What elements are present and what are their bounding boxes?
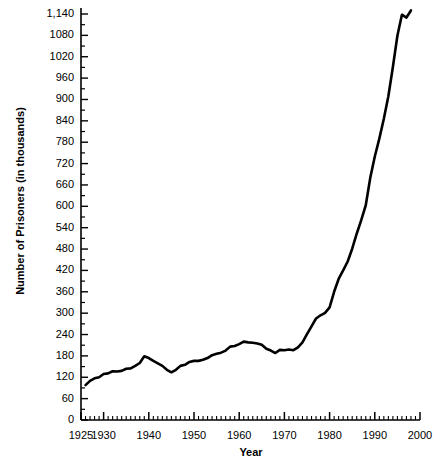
plot-area	[0, 0, 442, 466]
data-series-line	[86, 10, 411, 385]
prisoners-line-chart: Number of Prisoners (in thousands) 06012…	[0, 0, 442, 466]
